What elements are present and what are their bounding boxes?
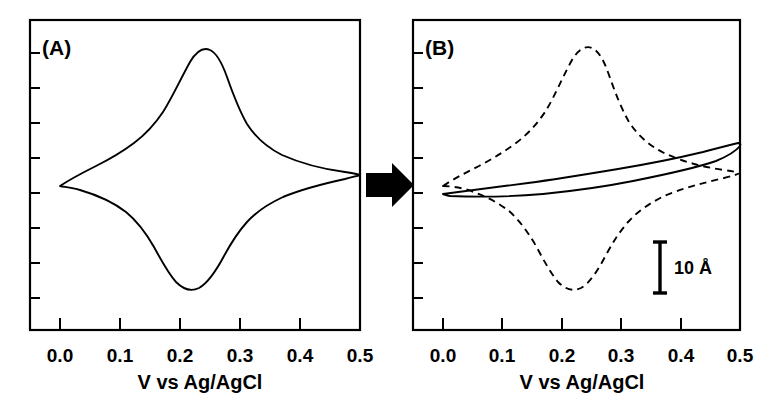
x-tick-label: 0.5	[347, 345, 374, 366]
panel-a: (A) 0.0 0.1 0.2 0.3 0.4 0.5 V vs Ag/AgCl	[0, 0, 388, 405]
panel-a-cv-trace	[60, 49, 360, 290]
x-tick-label: 0.2	[167, 345, 193, 366]
x-tick-label: 0.0	[430, 345, 456, 366]
panel-b-svg: (B) 10 Å 0.0 0.1 0.2 0.3 0.4	[388, 0, 776, 405]
panel-b-label: (B)	[425, 36, 454, 59]
panel-a-x-axis-title: V vs Ag/AgCl	[138, 371, 263, 393]
x-tick-label: 0.1	[107, 345, 134, 366]
x-tick-label: 0.5	[727, 345, 754, 366]
panel-b-x-tick-labels: 0.0 0.1 0.2 0.3 0.4 0.5	[430, 345, 754, 366]
panel-b-blocked-cv-solid	[443, 143, 740, 197]
current-scale-bar	[653, 242, 667, 293]
scale-bar-label: 10 Å	[674, 258, 712, 278]
x-tick-label: 0.1	[489, 345, 516, 366]
panel-b-x-ticks	[443, 318, 740, 330]
panel-a-x-tick-labels: 0.0 0.1 0.2 0.3 0.4 0.5	[47, 345, 374, 366]
panel-a-y-ticks	[30, 53, 40, 298]
x-tick-label: 0.3	[227, 345, 253, 366]
figure-root: (A) 0.0 0.1 0.2 0.3 0.4 0.5 V vs Ag/AgCl	[0, 0, 776, 405]
x-tick-label: 0.0	[47, 345, 73, 366]
panel-b-reference-cv-dashed	[443, 47, 740, 290]
panel-b-y-ticks	[413, 53, 423, 298]
panel-b: (B) 10 Å 0.0 0.1 0.2 0.3 0.4	[388, 0, 776, 405]
panel-a-svg: (A) 0.0 0.1 0.2 0.3 0.4 0.5 V vs Ag/AgCl	[0, 0, 388, 405]
x-tick-label: 0.4	[287, 345, 314, 366]
panel-b-x-axis-title: V vs Ag/AgCl	[520, 371, 645, 393]
x-tick-label: 0.2	[549, 345, 575, 366]
x-tick-label: 0.3	[608, 345, 634, 366]
panel-a-label: (A)	[42, 36, 71, 59]
panel-a-x-ticks	[60, 318, 360, 330]
x-tick-label: 0.4	[668, 345, 695, 366]
